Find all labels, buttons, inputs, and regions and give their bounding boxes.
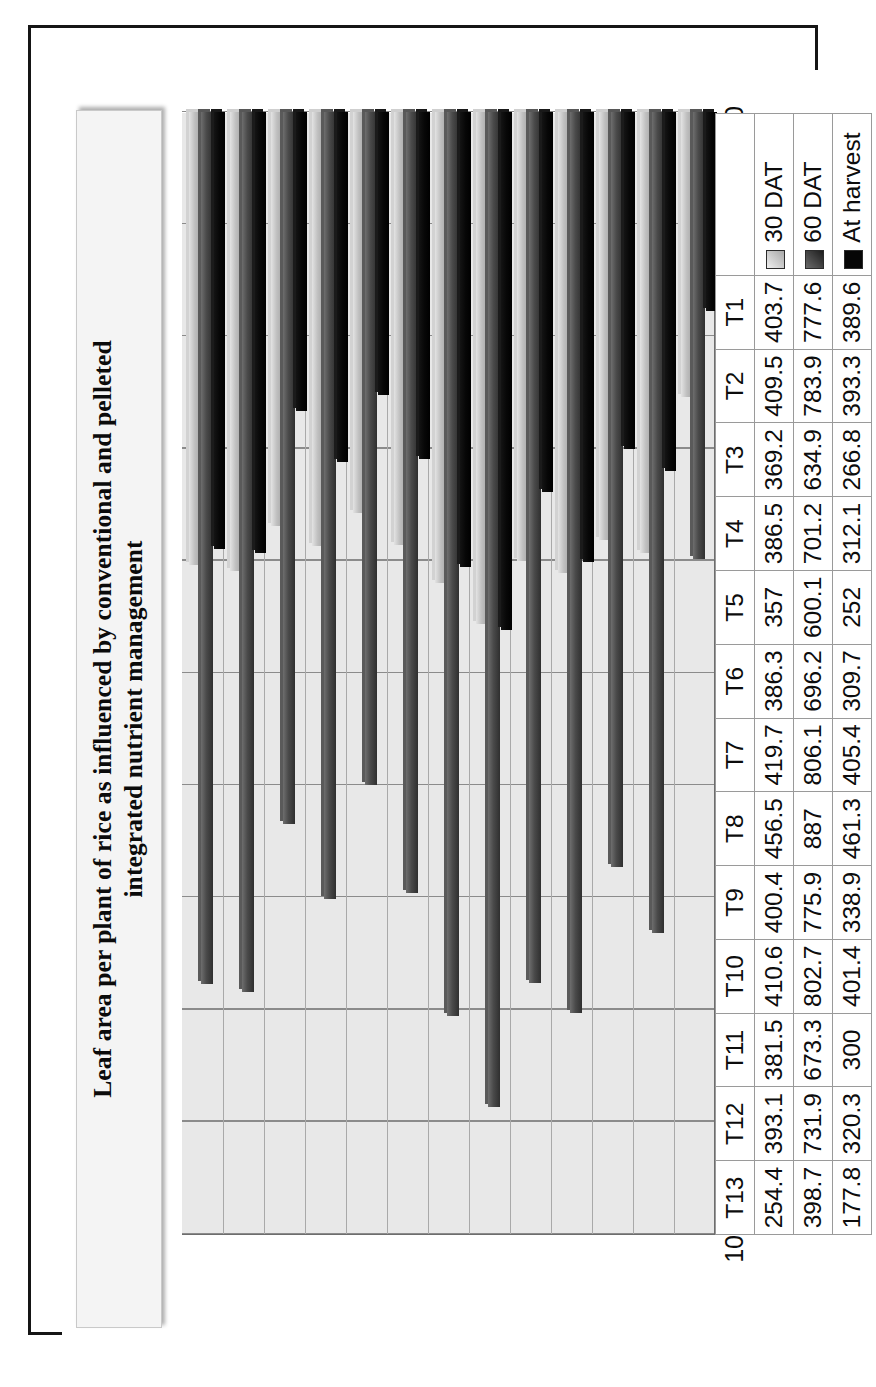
table-cell: 252 [833,570,872,644]
table-cell: 357 [755,570,794,644]
table-cell: 806.1 [794,718,833,792]
table-column-header: T8 [716,792,755,866]
bar-group-T4 [305,113,346,1234]
chart-canvas: Leaf area per plant of rice as influence… [62,70,844,1368]
table-cell: 775.9 [794,866,833,940]
plot-area [182,113,715,1235]
table-column-header: T13 [716,1161,755,1235]
bar-group-T5 [346,113,387,1234]
table-cell: 731.9 [794,1087,833,1161]
legend-item-at-harvest: At harvest [833,114,872,276]
table-cell: 393.1 [755,1087,794,1161]
table-cell: 777.6 [794,275,833,349]
table-cell: 401.4 [833,939,872,1013]
table-cell: 802.7 [794,939,833,1013]
table-corner-cell [716,114,755,276]
bar-group-T3 [264,113,305,1234]
table-cell: 400.4 [755,866,794,940]
table-cell: 409.5 [755,349,794,423]
dark-gray-swatch-icon [805,250,824,269]
table-column-header: T6 [716,644,755,718]
plot-area-container [182,113,715,1235]
bar-group-T12 [633,113,674,1234]
table-column-header: T7 [716,718,755,792]
table-cell: 419.7 [755,718,794,792]
chart-title-box: Leaf area per plant of rice as influence… [76,110,162,1328]
table-cell: 696.2 [794,644,833,718]
table-column-header: T10 [716,939,755,1013]
table-cell: 456.5 [755,792,794,866]
table-cell: 673.3 [794,1013,833,1087]
table-column-header: T1 [716,275,755,349]
table-column-header: T11 [716,1013,755,1087]
table-cell: 312.1 [833,497,872,571]
table-cell: 381.5 [755,1013,794,1087]
bar-group-T10 [551,113,592,1234]
table-cell: 266.8 [833,423,872,497]
bar-group-T1 [182,113,223,1234]
bar-group-T6 [387,113,428,1234]
bar-group-T8 [469,113,510,1234]
table-cell: 369.2 [755,423,794,497]
chart-data-table: T13T12T11T10T9T8T7T6T5T4T3T2T1254.4393.1… [715,113,872,1235]
table-cell: 320.3 [833,1087,872,1161]
table-cell: 701.2 [794,497,833,571]
light-gray-swatch-icon [766,250,785,269]
legend-label: 60 DAT [799,162,826,243]
table-row: 177.8320.3300401.4338.9461.3405.4309.725… [833,114,872,1235]
bar-group-T9 [510,113,551,1234]
table-cell: 403.7 [755,275,794,349]
table-cell: 300 [833,1013,872,1087]
bar-group-T2 [223,113,264,1234]
legend-label: At harvest [838,133,865,243]
table-column-header: T12 [716,1087,755,1161]
black-swatch-icon [844,250,863,269]
table-cell: 783.9 [794,349,833,423]
table-cell: 398.7 [794,1161,833,1235]
bar-group-T13 [674,113,715,1234]
table-cell: 177.8 [833,1161,872,1235]
table-header-row: T13T12T11T10T9T8T7T6T5T4T3T2T1 [716,114,755,1235]
table-cell: 389.6 [833,275,872,349]
table-column-header: T9 [716,866,755,940]
chart-title-line1: Leaf area per plant of rice as influence… [87,117,118,1321]
chart-title-line2: integrated nutrient management [118,117,149,1321]
table-cell: 393.3 [833,349,872,423]
table-cell: 386.3 [755,644,794,718]
table-column-header: T5 [716,570,755,644]
table-cell: 386.5 [755,497,794,571]
table-column-header: T3 [716,423,755,497]
table-column-header: T2 [716,349,755,423]
table-row: 398.7731.9673.3802.7775.9887806.1696.260… [794,114,833,1235]
table-row: 254.4393.1381.5410.6400.4456.5419.7386.3… [755,114,794,1235]
table-cell: 600.1 [794,570,833,644]
legend-item-30-dat: 30 DAT [755,114,794,276]
legend-item-60-dat: 60 DAT [794,114,833,276]
table-cell: 309.7 [833,644,872,718]
bar-group-T7 [428,113,469,1234]
legend-label: 30 DAT [760,162,787,243]
bar-group-T11 [592,113,633,1234]
table-cell: 338.9 [833,866,872,940]
table-column-header: T4 [716,497,755,571]
table-cell: 634.9 [794,423,833,497]
scanned-page-frame: Leaf area per plant of rice as influence… [28,25,818,1335]
table-cell: 461.3 [833,792,872,866]
rotated-chart-wrapper: Leaf area per plant of rice as influence… [31,28,876,1387]
table-cell: 887 [794,792,833,866]
table-cell: 410.6 [755,939,794,1013]
table-cell: 254.4 [755,1161,794,1235]
table-cell: 405.4 [833,718,872,792]
